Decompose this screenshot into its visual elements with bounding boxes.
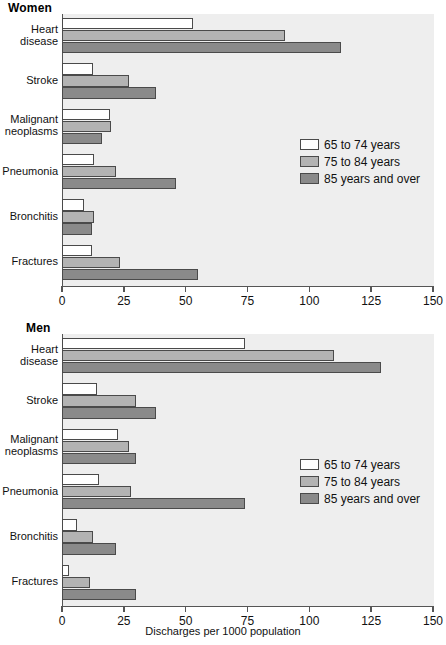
category-label-line1: Pneumonia [0, 165, 58, 177]
legend-label: 75 to 84 years [324, 156, 400, 168]
x-tick-label-50: 50 [166, 295, 206, 307]
legend: 65 to 74 years75 to 84 years85 years and… [300, 455, 420, 506]
x-tick-150 [432, 606, 434, 612]
category-label-line1: Fractures [0, 575, 58, 587]
bar-bronchitis-series-0 [62, 519, 77, 531]
bar-heart-disease-series-1 [62, 350, 334, 362]
bar-bronchitis-series-1 [62, 211, 94, 223]
chart-page: Women HeartdiseaseStrokeMalignantneoplas… [0, 0, 446, 645]
x-tick-label-0: 0 [42, 615, 82, 627]
category-label-heart-disease: Heartdisease [0, 23, 58, 47]
legend-swatch-icon-0 [300, 139, 319, 150]
x-tick-100 [309, 286, 311, 292]
bar-stroke-series-0 [62, 63, 93, 75]
bar-pneumonia-series-0 [62, 474, 99, 486]
x-tick-50 [185, 606, 187, 612]
bar-stroke-series-2 [62, 407, 156, 419]
category-label-line1: Heart [0, 343, 58, 355]
category-label-malignant-neoplasms: Malignantneoplasms [0, 113, 58, 137]
bar-malignant-neoplasms-series-1 [62, 121, 111, 133]
category-label-pneumonia: Pneumonia [0, 485, 58, 497]
category-label-stroke: Stroke [0, 74, 58, 86]
x-tick-label-100: 100 [289, 615, 329, 627]
bar-bronchitis-series-1 [62, 531, 93, 543]
category-label-line2: disease [0, 355, 58, 367]
bar-malignant-neoplasms-series-2 [62, 453, 136, 465]
x-tick-label-125: 125 [351, 615, 391, 627]
bar-heart-disease-series-2 [62, 362, 381, 374]
bar-malignant-neoplasms-series-0 [62, 429, 118, 441]
bar-malignant-neoplasms-series-2 [62, 133, 102, 145]
category-label-line1: Fractures [0, 255, 58, 267]
x-tick-label-0: 0 [42, 295, 82, 307]
legend-label: 75 to 84 years [324, 476, 400, 488]
x-tick-125 [370, 286, 372, 292]
legend-item-1: 75 to 84 years [300, 152, 420, 167]
category-label-line1: Malignant [0, 433, 58, 445]
category-label-line1: Stroke [0, 394, 58, 406]
legend: 65 to 74 years75 to 84 years85 years and… [300, 135, 420, 186]
panel-women-title: Women [8, 2, 52, 14]
x-tick-25 [123, 606, 125, 612]
x-tick-label-25: 25 [104, 295, 144, 307]
category-label-line1: Stroke [0, 74, 58, 86]
legend-swatch-icon-2 [300, 173, 319, 184]
legend-label: 65 to 74 years [324, 459, 400, 471]
x-tick-label-125: 125 [351, 295, 391, 307]
legend-label: 85 years and over [324, 493, 420, 505]
bar-stroke-series-2 [62, 87, 156, 99]
x-tick-0 [61, 286, 63, 292]
category-label-line1: Heart [0, 23, 58, 35]
x-tick-75 [247, 286, 249, 292]
bar-heart-disease-series-2 [62, 42, 341, 54]
x-tick-75 [247, 606, 249, 612]
legend-swatch-icon-2 [300, 493, 319, 504]
bar-heart-disease-series-0 [62, 18, 193, 30]
bar-fractures-series-0 [62, 565, 69, 577]
bar-pneumonia-series-2 [62, 498, 245, 510]
legend-item-0: 65 to 74 years [300, 135, 420, 150]
x-tick-125 [370, 606, 372, 612]
panel-men: Men Discharges per 1000 population Heart… [0, 320, 446, 645]
x-tick-0 [61, 606, 63, 612]
category-label-fractures: Fractures [0, 255, 58, 267]
bar-stroke-series-0 [62, 383, 97, 395]
category-label-stroke: Stroke [0, 394, 58, 406]
bar-bronchitis-series-0 [62, 199, 84, 211]
bar-malignant-neoplasms-series-1 [62, 441, 129, 453]
bar-bronchitis-series-2 [62, 543, 116, 555]
x-tick-label-100: 100 [289, 295, 329, 307]
category-label-bronchitis: Bronchitis [0, 530, 58, 542]
bar-fractures-series-0 [62, 245, 92, 257]
bar-heart-disease-series-1 [62, 30, 285, 42]
x-tick-label-75: 75 [228, 615, 268, 627]
legend-item-1: 75 to 84 years [300, 472, 420, 487]
legend-swatch-icon-0 [300, 459, 319, 470]
category-label-bronchitis: Bronchitis [0, 210, 58, 222]
legend-item-2: 85 years and over [300, 169, 420, 184]
bar-malignant-neoplasms-series-0 [62, 109, 110, 121]
category-label-malignant-neoplasms: Malignantneoplasms [0, 433, 58, 457]
category-label-line1: Bronchitis [0, 530, 58, 542]
legend-item-0: 65 to 74 years [300, 455, 420, 470]
panel-men-title: Men [26, 322, 51, 334]
bar-fractures-series-1 [62, 257, 120, 269]
bar-pneumonia-series-2 [62, 178, 176, 190]
category-label-pneumonia: Pneumonia [0, 165, 58, 177]
bar-bronchitis-series-2 [62, 223, 92, 235]
x-tick-25 [123, 286, 125, 292]
category-label-line2: disease [0, 35, 58, 47]
x-tick-label-75: 75 [228, 295, 268, 307]
x-tick-label-50: 50 [166, 615, 206, 627]
x-tick-100 [309, 606, 311, 612]
category-label-heart-disease: Heartdisease [0, 343, 58, 367]
legend-item-2: 85 years and over [300, 489, 420, 504]
legend-swatch-icon-1 [300, 156, 319, 167]
legend-label: 65 to 74 years [324, 139, 400, 151]
category-label-line2: neoplasms [0, 125, 58, 137]
bar-heart-disease-series-0 [62, 338, 245, 350]
bar-fractures-series-2 [62, 589, 136, 601]
legend-swatch-icon-1 [300, 476, 319, 487]
bar-fractures-series-2 [62, 269, 198, 281]
category-label-fractures: Fractures [0, 575, 58, 587]
